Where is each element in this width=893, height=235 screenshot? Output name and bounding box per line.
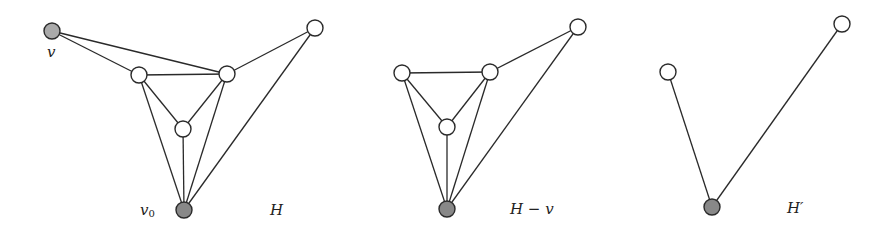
edge-a-c (139, 75, 183, 129)
edge-b-v0 (184, 74, 227, 210)
vertex-a (131, 67, 147, 83)
vertex-c (439, 119, 455, 135)
graph-label: H − v (509, 200, 554, 218)
edge-a-b (402, 72, 490, 73)
graph-H-minus-v: H − v (394, 19, 586, 218)
vertex-label-v0: v0 (140, 201, 155, 219)
vertex-a (394, 65, 410, 81)
vertex-b (219, 66, 235, 82)
edge-t-v0 (184, 28, 315, 210)
vertex-b (482, 64, 498, 80)
edge-b-c (447, 72, 490, 127)
edge-a-v0 (402, 73, 447, 209)
edge-c-v0 (183, 129, 184, 210)
vertex-c (175, 121, 191, 137)
graph-label: H′ (786, 199, 804, 217)
edge-v-a (52, 31, 139, 75)
vertex-v0 (176, 202, 192, 218)
graph-figure: vv0H H − v H′ (0, 0, 893, 235)
graph-label: H (269, 201, 284, 219)
edge-b-t (490, 27, 578, 72)
edge-t-v0 (447, 27, 578, 209)
vertex-label-v: v (47, 43, 56, 61)
vertex-l (660, 64, 676, 80)
edge-l-v0 (668, 72, 712, 207)
graph-H-prime: H′ (660, 16, 850, 217)
edge-a-b (139, 74, 227, 75)
edge-b-t (227, 28, 315, 74)
vertex-t (307, 20, 323, 36)
vertex-v0 (704, 199, 720, 215)
vertex-t (570, 19, 586, 35)
edge-b-c (183, 74, 227, 129)
vertex-v (44, 23, 60, 39)
vertex-t (834, 16, 850, 32)
edge-a-c (402, 73, 447, 127)
edge-a-v0 (139, 75, 184, 210)
edge-b-v0 (447, 72, 490, 209)
graph-H: vv0H (44, 20, 323, 219)
edge-t-v0 (712, 24, 842, 207)
vertex-v0 (439, 201, 455, 217)
